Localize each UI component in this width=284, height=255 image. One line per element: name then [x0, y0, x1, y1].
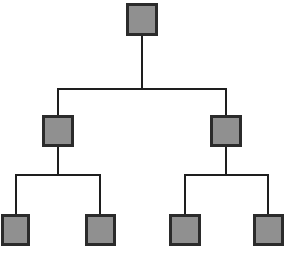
- tree-node-left-branch[interactable]: [42, 115, 74, 147]
- tree-node-leaf-3[interactable]: [169, 214, 201, 246]
- tree-node-leaf-1[interactable]: [1, 214, 30, 246]
- tree-node-leaf-4[interactable]: [253, 214, 284, 246]
- tree-node-root[interactable]: [126, 3, 158, 36]
- tree-diagram-canvas: [0, 0, 284, 255]
- tree-node-leaf-2[interactable]: [85, 214, 116, 246]
- tree-node-right-branch[interactable]: [210, 115, 242, 147]
